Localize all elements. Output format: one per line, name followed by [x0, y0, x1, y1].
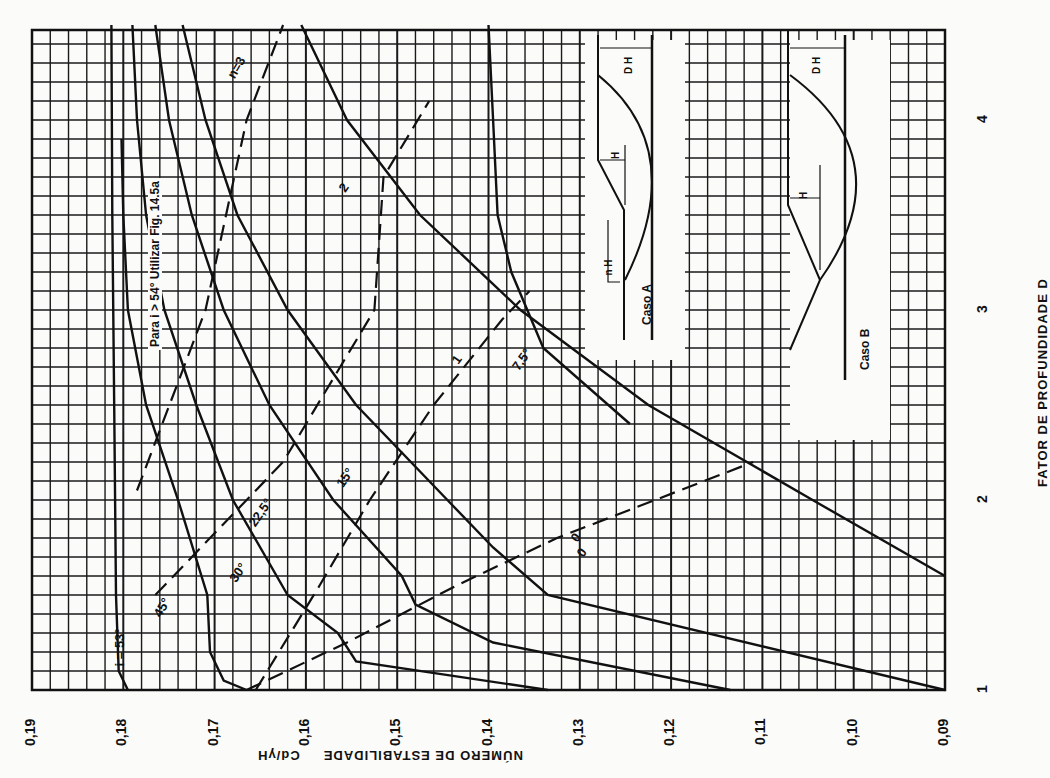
case-b-dimension-label: D H — [811, 57, 822, 74]
y-tick-label: 0,16 — [296, 712, 316, 752]
x-tick-label: 2 — [974, 489, 990, 509]
case-a-dimension-label: n H — [603, 259, 614, 275]
y-axis-label: NÚMERO DE ESTABILIDADE Cd/γH — [150, 748, 630, 763]
y-axis-title: NÚMERO DE ESTABILIDADE — [323, 748, 523, 763]
case-a-dimension-label: D H — [623, 57, 634, 74]
y-axis-unit: Cd/γH — [257, 748, 300, 763]
series-30- — [132, 25, 547, 690]
chart-note: Para i > 54° Utilizar Fig. 14.5a — [148, 178, 162, 350]
series-45- — [122, 139, 247, 690]
y-tick-label: 0,15 — [387, 712, 407, 752]
y-tick-label: 0,09 — [935, 712, 955, 752]
case-a-label: Caso A — [640, 284, 654, 325]
y-tick-label: 0,19 — [22, 712, 42, 752]
y-tick-label: 0,13 — [570, 712, 590, 752]
series-i-53- — [111, 25, 128, 690]
x-tick-label: 3 — [974, 299, 990, 319]
x-tick-label: 1 — [974, 679, 990, 699]
y-tick-label: 0,17 — [205, 712, 225, 752]
y-tick-label: 0,12 — [661, 712, 681, 752]
x-axis-label: FATOR DE PROFUNDIDADE D — [1035, 183, 1050, 583]
y-tick-label: 0,18 — [113, 712, 133, 752]
inset-case-a — [585, 40, 685, 360]
case-b-dimension-label: H — [798, 192, 809, 199]
inset-case-b — [790, 40, 890, 440]
case-b-label: Caso B — [858, 329, 872, 370]
x-tick-label: 4 — [974, 109, 990, 129]
y-tick-label: 0,11 — [752, 712, 772, 752]
y-tick-label: 0,14 — [479, 712, 499, 752]
curve-label: i = 53° — [112, 628, 127, 666]
y-tick-label: 0,10 — [844, 712, 864, 752]
case-a-dimension-label: H — [610, 152, 621, 159]
